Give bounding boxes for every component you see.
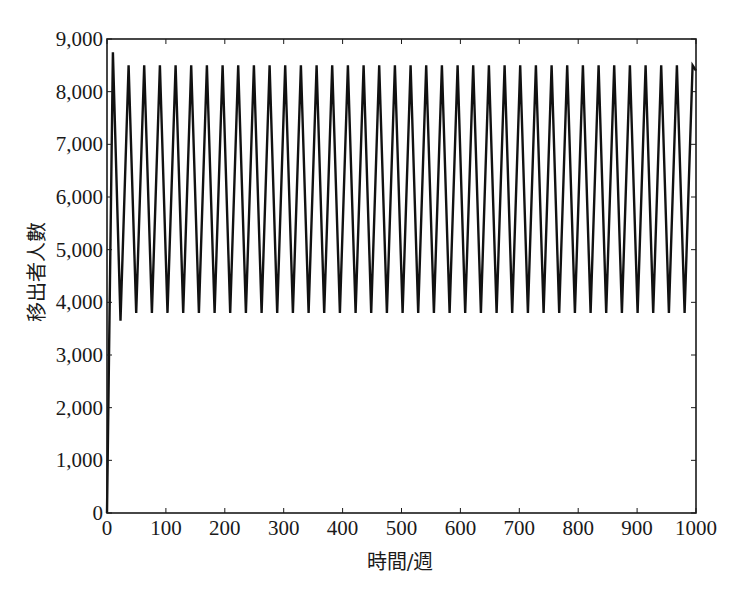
x-tick-label: 800 — [562, 516, 594, 540]
x-tick-label: 300 — [268, 516, 300, 540]
x-tick-label: 200 — [209, 516, 241, 540]
line-chart: 01002003004005006007008009001000 01,0002… — [0, 0, 744, 596]
series-path — [107, 52, 696, 513]
y-tick-label: 0 — [93, 501, 104, 525]
x-tick-label: 400 — [327, 516, 359, 540]
y-tick-label: 7,000 — [56, 132, 103, 156]
x-tick-label: 500 — [386, 516, 418, 540]
x-tick-label: 100 — [150, 516, 182, 540]
x-axis-title: 時間/週 — [367, 550, 434, 574]
y-tick-label: 9,000 — [56, 27, 103, 51]
x-tick-label: 0 — [102, 516, 113, 540]
y-axis-title: 移出者人數 — [25, 222, 49, 322]
data-series-line — [107, 52, 696, 513]
x-tick-label: 700 — [504, 516, 536, 540]
y-tick-label: 4,000 — [56, 290, 103, 314]
x-tick-label: 600 — [445, 516, 477, 540]
y-tick-label: 5,000 — [56, 238, 103, 262]
x-tick-label: 1000 — [675, 516, 717, 540]
y-tick-label: 2,000 — [56, 396, 103, 420]
y-tick-label: 3,000 — [56, 343, 103, 367]
y-tick-label: 6,000 — [56, 185, 103, 209]
x-tick-label: 900 — [621, 516, 653, 540]
y-tick-label: 8,000 — [56, 80, 103, 104]
y-tick-label: 1,000 — [56, 448, 103, 472]
